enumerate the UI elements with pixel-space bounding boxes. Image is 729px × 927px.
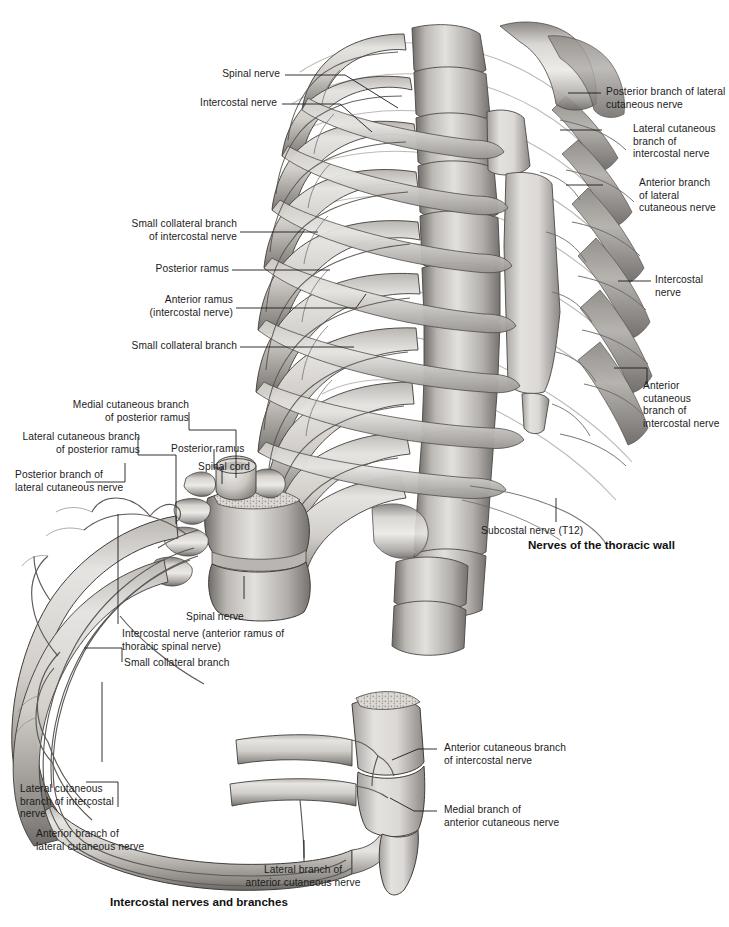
- label-small-collateral-branch-bottom: Small collateral branch: [124, 657, 314, 670]
- label-posterior-branch-of-lateral-cutaneous-nerve-bottom: Posterior branch of lateral cutaneous ne…: [15, 469, 145, 494]
- label-spinal-cord: Spinal cord: [198, 461, 308, 474]
- label-spinal-nerve-top: Spinal nerve: [100, 68, 280, 81]
- label-anterior-branch-of-lateral-cutaneous-nerve-top: Anterior branch of lateral cutaneous ner…: [639, 177, 729, 215]
- label-intercostal-nerve-left: Intercostal nerve: [97, 97, 277, 110]
- label-posterior-branch-of-lateral-cutaneous-nerve-top: Posterior branch of lateral cutaneous ne…: [606, 86, 729, 111]
- label-medial-branch-of-anterior-cutaneous-nerve: Medial branch of anterior cutaneous nerv…: [444, 804, 624, 829]
- label-lateral-cutaneous-branch-of-intercostal-nerve-bottom: Lateral cutaneous branch of intercostal …: [20, 783, 140, 821]
- label-posterior-ramus-bottom: Posterior ramus: [171, 443, 291, 456]
- label-intercostal-nerve-right: Intercostal nerve: [655, 274, 729, 299]
- label-posterior-ramus-top: Posterior ramus: [29, 263, 229, 276]
- label-anterior-cutaneous-branch-of-intercostal-nerve-top: Anterior cutaneous branch of intercostal…: [643, 380, 729, 430]
- label-subcostal-nerve-t12: Subcostal nerve (T12): [481, 525, 641, 538]
- label-small-collateral-branch-top: Small collateral branch: [27, 340, 237, 353]
- label-intercostal-nerve-anterior-ramus: Intercostal nerve (anterior ramus of tho…: [122, 628, 352, 653]
- label-small-collateral-branch-of-intercostal-nerve: Small collateral branch of intercostal n…: [27, 218, 237, 243]
- label-spinal-nerve-bottom: Spinal nerve: [186, 611, 306, 624]
- label-lateral-branch-of-anterior-cutaneous-nerve: Lateral branch of anterior cutaneous ner…: [210, 864, 396, 889]
- label-anterior-cutaneous-branch-of-intercostal-nerve-bottom: Anterior cutaneous branch of intercostal…: [444, 742, 634, 767]
- label-medial-cutaneous-branch-of-posterior-ramus: Medial cutaneous branch of posterior ram…: [0, 399, 189, 424]
- label-lateral-cutaneous-branch-of-posterior-ramus: Lateral cutaneous branch of posterior ra…: [0, 431, 140, 456]
- anatomy-plate: Spinal nerve Intercostal nerve Small col…: [0, 0, 729, 927]
- label-anterior-ramus-intercostal-nerve: Anterior ramus (intercostal nerve): [33, 294, 233, 319]
- caption-intercostal-nerves-and-branches: Intercostal nerves and branches: [110, 895, 288, 908]
- label-lateral-cutaneous-branch-of-intercostal-nerve-top: Lateral cutaneous branch of intercostal …: [633, 123, 729, 161]
- caption-nerves-of-thoracic-wall: Nerves of the thoracic wall: [528, 538, 675, 551]
- label-anterior-branch-of-lateral-cutaneous-nerve-bottom: Anterior branch of lateral cutaneous ner…: [36, 828, 186, 853]
